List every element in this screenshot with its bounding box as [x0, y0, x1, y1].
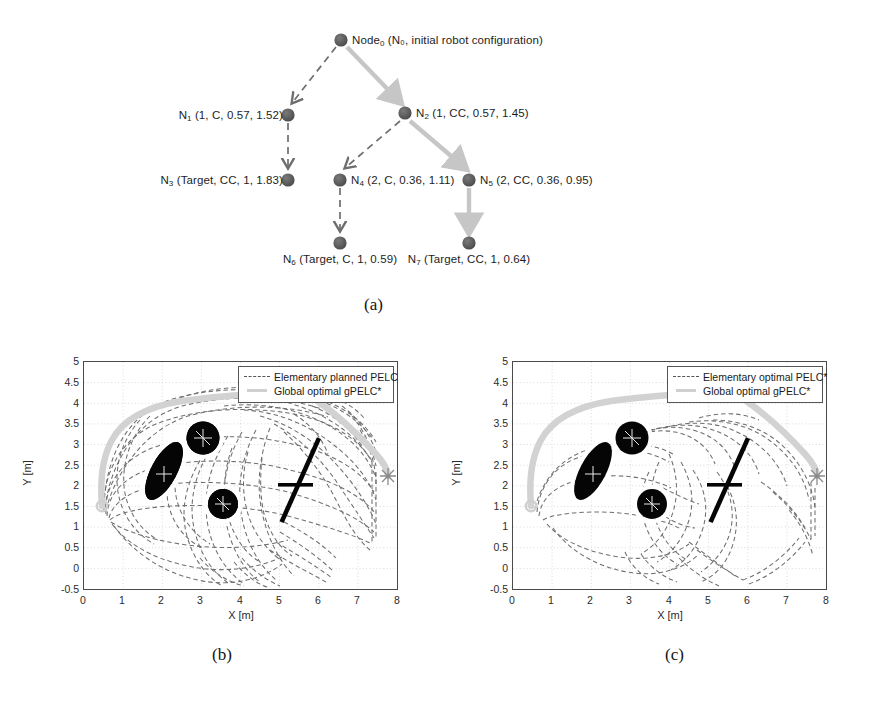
- plot-b-yaxis-label: Y [m]: [21, 443, 33, 503]
- plot-c-ytick-5: 2.5: [482, 459, 508, 471]
- edge-n0-n2: [347, 47, 399, 101]
- plot-b-xtick-4: 4: [231, 594, 249, 606]
- node-label-params: (Target, CC, 1, 1.83): [173, 174, 283, 186]
- plot-c-xtick-5: 5: [699, 594, 717, 606]
- plot-c-ytick-2: 4: [482, 397, 508, 409]
- plot-b-ytick-2: 4: [53, 397, 79, 409]
- plot-c-ytick-7: 1.5: [482, 500, 508, 512]
- dashed-line-icon: [244, 372, 270, 382]
- plot-b-ytick-9: 0.5: [53, 541, 79, 553]
- tree-node-n7[interactable]: [462, 236, 475, 249]
- plot-b-ytick-10: 0: [53, 562, 79, 574]
- plot-c-legend: Elementary optimal PELC* Global optimal …: [667, 366, 823, 403]
- plot-c-obstacles: [566, 422, 750, 524]
- plot-c-ytick-1: 4.5: [482, 376, 508, 388]
- plot-b-xtick-2: 2: [152, 594, 170, 606]
- plot-b-xaxis-label: X [m]: [200, 609, 282, 621]
- subcaption-b: (b): [212, 645, 232, 665]
- dashed-line-icon: [673, 372, 699, 382]
- solid-line-icon: [673, 386, 699, 396]
- tree-node-label-n0: Node0 (N₀, initial robot configuration): [352, 35, 543, 47]
- solid-line-icon: [244, 386, 270, 396]
- plot-c-ytick-0: 5: [482, 355, 508, 367]
- plot-c-yaxis-label: Y [m]: [450, 443, 462, 503]
- plot-c-xtick-6: 6: [738, 594, 756, 606]
- plot-b-xtick-8: 8: [388, 594, 406, 606]
- edge-n2-n5: [410, 121, 464, 167]
- plot-c-xtick-1: 1: [542, 594, 560, 606]
- plot-b-xtick-6: 6: [309, 594, 327, 606]
- plot-b-ytick-8: 1: [53, 520, 79, 532]
- tree-node-label-n1: N1 (1, C, 0.57, 1.52): [0, 110, 283, 122]
- node-label-index: 4: [359, 179, 364, 188]
- node-label-params: (1, C, 0.57, 1.52): [192, 109, 283, 121]
- node-label-name: Node: [352, 34, 380, 46]
- tree-diagram-panel: Node0 (N₀, initial robot configuration)N…: [0, 0, 871, 330]
- plot-c-xtick-4: 4: [660, 594, 678, 606]
- plot-b-ytick-6: 2: [53, 479, 79, 491]
- tree-node-n4[interactable]: [333, 173, 346, 186]
- plot-b-ytick-7: 1.5: [53, 500, 79, 512]
- edge-n2-n4: [345, 121, 400, 168]
- edge-n0-n1: [292, 47, 336, 103]
- node-label-index: 2: [424, 112, 429, 121]
- plot-c-xtick-0: 0: [503, 594, 521, 606]
- plot-b-xtick-0: 0: [74, 594, 92, 606]
- node-label-params: (Target, CC, 1, 0.64): [421, 253, 531, 265]
- tree-node-label-n2: N2 (1, CC, 0.57, 1.45): [416, 108, 529, 120]
- plot-c-legend-label-1: Global optimal gPELC*: [703, 384, 810, 398]
- tree-node-n0[interactable]: [334, 33, 347, 46]
- tree-node-n5[interactable]: [462, 173, 475, 186]
- node-label-index: 5: [488, 179, 493, 188]
- plot-c-ytick-8: 1: [482, 520, 508, 532]
- node-label-index: 6: [291, 258, 296, 267]
- plot-c-xtick-7: 7: [777, 594, 795, 606]
- plot-b-legend: Elementary planned PELC Global optimal g…: [238, 366, 394, 403]
- plot-c-legend-label-0: Elementary optimal PELC*: [703, 370, 827, 384]
- subcaption-a: (a): [364, 295, 383, 315]
- plot-c-xtick-2: 2: [581, 594, 599, 606]
- plot-b-ytick-1: 4.5: [53, 376, 79, 388]
- tree-edges: [288, 47, 469, 231]
- node-label-name: N: [179, 109, 187, 121]
- node-label-params: (N₀, initial robot configuration): [384, 34, 542, 46]
- tree-node-n1[interactable]: [281, 108, 294, 121]
- tree-nodes: [281, 33, 475, 249]
- plot-b-xtick-1: 1: [113, 594, 131, 606]
- plot-c-panel: 5 4.5 4 3.5 3 2.5 2 1.5 1 0.5 0 -0.5 0 1…: [429, 330, 871, 712]
- plot-c-xtick-8: 8: [817, 594, 835, 606]
- plot-b-panel: 5 4.5 4 3.5 3 2.5 2 1.5 1 0.5 0 -0.5 0 1…: [0, 330, 436, 712]
- node-label-index: 0: [380, 39, 385, 48]
- plot-c-legend-row-0: Elementary optimal PELC*: [673, 370, 816, 384]
- plot-b-ytick-4: 3: [53, 438, 79, 450]
- tree-node-n2[interactable]: [398, 106, 411, 119]
- tree-node-label-n4: N4 (2, C, 0.36, 1.11): [351, 175, 455, 187]
- plot-c-legend-row-1: Global optimal gPELC*: [673, 384, 816, 398]
- tree-svg: [0, 0, 871, 330]
- plot-b-ytick-5: 2.5: [53, 459, 79, 471]
- plot-b-xtick-3: 3: [191, 594, 209, 606]
- node-label-params: (2, CC, 0.36, 0.95): [493, 174, 593, 186]
- plot-b-legend-row-0: Elementary planned PELC: [244, 370, 387, 384]
- subcaption-c: (c): [665, 645, 684, 665]
- plot-b-goal-marker: [380, 468, 396, 485]
- plot-b-xtick-7: 7: [348, 594, 366, 606]
- plot-c-ytick-9: 0.5: [482, 541, 508, 553]
- tree-node-n6[interactable]: [333, 236, 346, 249]
- plot-b-ytick-3: 3.5: [53, 417, 79, 429]
- tree-node-label-n3: N3 (Target, CC, 1, 1.83): [0, 175, 283, 187]
- plot-c-xaxis-label: X [m]: [629, 609, 711, 621]
- node-label-name: N: [408, 253, 416, 265]
- tree-node-label-n5: N5 (2, CC, 0.36, 0.95): [480, 175, 593, 187]
- plot-b-xtick-5: 5: [270, 594, 288, 606]
- plot-c-ytick-6: 2: [482, 479, 508, 491]
- tree-node-label-n7: N7 (Target, CC, 1, 0.64): [309, 254, 629, 266]
- plot-b-legend-label-1: Global optimal gPELC*: [274, 384, 381, 398]
- plot-c-ytick-3: 3.5: [482, 417, 508, 429]
- node-label-index: 3: [169, 179, 174, 188]
- tree-node-n3[interactable]: [281, 173, 294, 186]
- plot-c-ytick-10: 0: [482, 562, 508, 574]
- plot-b-legend-label-0: Elementary planned PELC: [274, 370, 398, 384]
- node-label-params: (1, CC, 0.57, 1.45): [429, 107, 529, 119]
- plot-c-ytick-4: 3: [482, 438, 508, 450]
